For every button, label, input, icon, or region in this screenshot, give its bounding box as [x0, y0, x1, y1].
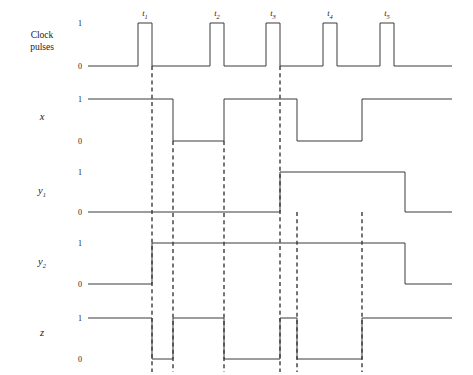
signal-label-z: z: [39, 327, 44, 338]
level-label-high-clock-pulses: 1: [78, 19, 82, 28]
level-label-low-clock-pulses: 0: [78, 62, 82, 71]
diagram-background: [0, 0, 473, 375]
level-label-high-z: 1: [78, 314, 82, 323]
level-label-low-z: 0: [78, 355, 82, 364]
level-label-low-y1: 0: [78, 208, 82, 217]
level-label-high-y1: 1: [78, 168, 82, 177]
signal-label-x: x: [39, 111, 45, 122]
level-label-high-y2: 1: [78, 239, 82, 248]
level-label-high-x: 1: [78, 95, 82, 104]
timing-diagram: 10Clockpulses10x10y110y210z t1t2t3t4t5: [0, 0, 473, 375]
level-label-low-y2: 0: [78, 280, 82, 289]
level-label-low-x: 0: [78, 137, 82, 146]
